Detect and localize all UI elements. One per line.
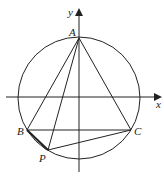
segment-PC — [48, 130, 131, 150]
geometry-diagram: y x A B C P — [0, 0, 164, 186]
point-P-label: P — [38, 152, 46, 164]
point-C-label: C — [134, 125, 142, 137]
point-A-label: A — [68, 26, 76, 38]
segment-BP — [27, 130, 48, 150]
segment-AB — [27, 38, 79, 130]
point-B-label: B — [17, 125, 24, 137]
x-axis-label: x — [155, 98, 161, 110]
segment-AC — [79, 38, 131, 130]
segment-AP — [48, 38, 79, 150]
y-axis-label: y — [67, 6, 73, 18]
